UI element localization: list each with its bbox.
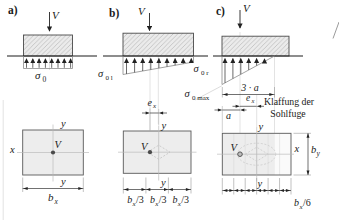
- svg-text:/3: /3: [181, 194, 189, 205]
- footing-b: [123, 33, 194, 56]
- axis-label-y-top: y: [161, 120, 167, 131]
- bx3-label-1: b x /3: [127, 194, 144, 208]
- plan-left: y x y V b x: [9, 118, 89, 206]
- bx6-label: b x /6: [294, 197, 311, 211]
- sigma0l-label: σ 0 l: [98, 68, 113, 82]
- axis-label-y-top: y: [60, 118, 66, 129]
- axis-label-y-bottom: y: [160, 177, 166, 188]
- svg-text:b: b: [127, 194, 132, 205]
- svg-text:0 r: 0 r: [201, 69, 209, 77]
- svg-text:e: e: [246, 93, 250, 103]
- svg-text:/3: /3: [136, 194, 144, 205]
- load-point: [51, 150, 55, 154]
- bx-dimension: b x: [23, 178, 84, 206]
- load-label-a: V: [52, 9, 60, 21]
- stress-arrows-a: [27, 59, 71, 68]
- svg-text:y: y: [316, 149, 321, 158]
- elevation-b: b) V σ 0 l σ 0 r: [98, 5, 209, 131]
- svg-text:0: 0: [43, 75, 47, 84]
- svg-text:b: b: [311, 144, 316, 155]
- svg-text:b: b: [294, 197, 299, 208]
- axis-label-y-top: y: [258, 121, 264, 132]
- sigma0-label: σ 0: [35, 69, 47, 84]
- bx3-label-3: b x /3: [172, 194, 189, 208]
- contact-width-label: 3 · a: [240, 82, 259, 93]
- svg-text:σ: σ: [98, 68, 104, 79]
- svg-text:0 max: 0 max: [192, 94, 210, 102]
- svg-text:b: b: [48, 191, 54, 203]
- footing-a: [24, 35, 73, 56]
- svg-text:σ: σ: [194, 63, 200, 74]
- axis-label-x: x: [294, 143, 300, 154]
- stress-arrows-b: [127, 59, 192, 74]
- plan-middle: y y V e x b x /3: [118, 97, 197, 208]
- svg-text:x: x: [54, 197, 59, 206]
- panel-label-c: c): [216, 5, 225, 18]
- stress-triangle-outline-c: [222, 56, 275, 85]
- svg-text:b: b: [172, 194, 177, 205]
- svg-text:a: a: [226, 110, 231, 121]
- cropped-mark: [333, 22, 339, 39]
- gap-note: Klaffung der Sohlfuge: [264, 96, 315, 119]
- axis-label-y-bottom: y: [257, 178, 263, 189]
- by-dimension: b y: [294, 133, 321, 175]
- sixths-dimension: b x /6: [222, 178, 310, 211]
- svg-text:0 l: 0 l: [106, 74, 113, 82]
- stress-block-outline-a: [24, 56, 73, 69]
- svg-text:x: x: [152, 102, 157, 110]
- load-label-b: V: [138, 5, 146, 17]
- load-point: [238, 152, 243, 157]
- elevation-a: a) V σ 0: [7, 4, 97, 84]
- a-dimension: a: [215, 106, 247, 133]
- svg-text:/3: /3: [159, 194, 167, 205]
- svg-text:x: x: [251, 97, 255, 104]
- svg-text:Sohlfuge: Sohlfuge: [270, 108, 306, 119]
- svg-text:e: e: [148, 97, 153, 108]
- panel-label-b: b): [109, 7, 119, 20]
- panel-label-a: a): [8, 4, 18, 17]
- svg-text:σ: σ: [35, 69, 41, 81]
- svg-text:Klaffung der: Klaffung der: [264, 96, 315, 107]
- axis-label-x: x: [9, 144, 15, 155]
- foundation-stress-diagram: a) V σ 0 b) V: [0, 0, 339, 220]
- svg-text:b: b: [150, 194, 155, 205]
- thirds-dimension: b x /3 b x /3 b x /3: [123, 178, 191, 208]
- svg-text:/6: /6: [303, 197, 311, 208]
- sigma0r-label: σ 0 r: [194, 63, 210, 77]
- load-point: [148, 150, 152, 154]
- stress-arrows-c: [225, 59, 265, 83]
- axis-label-y-bottom: y: [60, 176, 66, 187]
- figure-canvas: a) V σ 0 b) V: [0, 0, 339, 220]
- svg-text:σ: σ: [185, 88, 191, 99]
- sigma0max-label: σ 0 max: [185, 88, 210, 102]
- load-label-c: V: [243, 2, 251, 14]
- footing-c: [222, 36, 289, 56]
- bx3-label-2: b x /3: [150, 194, 167, 208]
